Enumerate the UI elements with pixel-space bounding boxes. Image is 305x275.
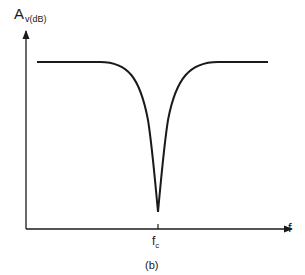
fc-label: fc [152, 234, 159, 250]
x-axis-label: f [288, 220, 292, 235]
y-axis-label: Av(dB) [14, 5, 47, 24]
response-curve [37, 62, 268, 212]
notch-filter-diagram: Av(dB) f fc (b) [0, 0, 305, 275]
figure-caption: (b) [145, 259, 158, 271]
